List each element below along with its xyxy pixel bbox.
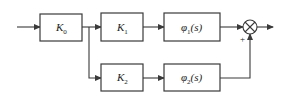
phi2-to-sum-arrow	[220, 34, 250, 78]
k0-to-k2-arrow	[89, 27, 101, 78]
block-k2: K2	[101, 64, 143, 91]
plus-sign: +	[240, 34, 245, 44]
block-phi1: φ1(s)	[164, 13, 220, 41]
block-k1: K1	[101, 13, 143, 41]
block-k0: K0	[40, 14, 82, 41]
block-phi2: φ2(s)	[164, 64, 220, 91]
summing-junction	[243, 20, 257, 34]
block-diagram: K0 K1 K2 φ1(s) φ2(s) +	[0, 0, 288, 97]
